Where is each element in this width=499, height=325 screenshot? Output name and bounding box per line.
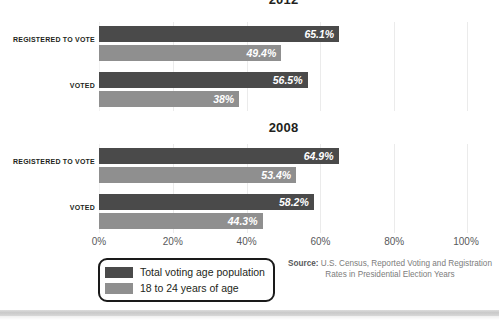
bar-value-label: 38% — [213, 91, 234, 107]
chart-2012-category-label-voted: VOTED — [0, 81, 95, 90]
legend-swatch-dark-icon — [105, 267, 133, 278]
chart-2012-title: 2012 — [99, 0, 468, 7]
bar-total-voting-age-population: 56.5% — [99, 72, 308, 88]
legend-item-total-voting-age-population: Total voting age population — [105, 264, 265, 280]
x-tick-40: 40% — [237, 236, 257, 247]
x-axis: 0% 20% 40% 60% 80% 100% — [99, 236, 468, 250]
bar-18-to-24-years-of-age: 53.4% — [99, 167, 296, 183]
bar-total-voting-age-population: 64.9% — [99, 148, 339, 164]
bar-18-to-24-years-of-age: 49.4% — [99, 45, 281, 61]
bar-value-label: 65.1% — [304, 26, 334, 42]
source-note: Source: U.S. Census, Reported Voting and… — [286, 258, 494, 280]
bar-value-label: 58.2% — [279, 194, 309, 210]
legend-item-18-to-24-years-of-age: 18 to 24 years of age — [105, 280, 265, 296]
legend-label: Total voting age population — [140, 264, 265, 280]
bar-value-label: 56.5% — [273, 72, 303, 88]
legend-label: 18 to 24 years of age — [140, 280, 239, 296]
bar-18-to-24-years-of-age: 38% — [99, 91, 239, 107]
chart-2008-category-label-registered: REGISTERED TO VOTE — [0, 157, 95, 166]
x-tick-20: 20% — [163, 236, 183, 247]
chart-2008-group-voted: 58.2% 44.3% — [99, 194, 468, 229]
bar-value-label: 49.4% — [247, 45, 277, 61]
x-tick-60: 60% — [310, 236, 330, 247]
chart-2008-group-registered: 64.9% 53.4% — [99, 148, 468, 183]
x-tick-80: 80% — [384, 236, 404, 247]
bar-total-voting-age-population: 65.1% — [99, 26, 339, 42]
bar-value-label: 64.9% — [304, 148, 334, 164]
source-prefix: Source: — [288, 259, 318, 268]
x-tick-100: 100% — [453, 236, 479, 247]
chart-2008-plot-area: 64.9% 53.4% 58.2% 44.3% — [99, 144, 468, 233]
x-tick-0: 0% — [92, 236, 106, 247]
chart-2012-group-voted: 56.5% 38% — [99, 72, 468, 107]
bar-value-label: 53.4% — [261, 167, 291, 183]
chart-2012-group-registered: 65.1% 49.4% — [99, 26, 468, 61]
chart-2008-title: 2008 — [99, 120, 468, 135]
bottom-divider-shadow — [0, 316, 499, 320]
bar-value-label: 44.3% — [228, 213, 258, 229]
bar-total-voting-age-population: 58.2% — [99, 194, 314, 210]
legend: Total voting age population 18 to 24 yea… — [98, 258, 275, 302]
source-text: U.S. Census, Reported Voting and Registr… — [319, 259, 492, 279]
chart-2008-category-label-voted: VOTED — [0, 203, 95, 212]
chart-2012-plot-area: 65.1% 49.4% 56.5% 38% — [99, 22, 468, 111]
bar-18-to-24-years-of-age: 44.3% — [99, 213, 263, 229]
chart-2012-category-label-registered: REGISTERED TO VOTE — [0, 35, 95, 44]
legend-swatch-light-icon — [105, 283, 133, 294]
